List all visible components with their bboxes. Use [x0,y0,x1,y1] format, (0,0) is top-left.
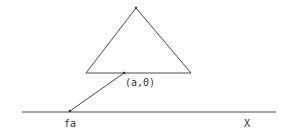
apex-point [135,7,137,9]
point-a0 [123,72,126,75]
diagram-canvas: (a,0) fa X [0,0,291,133]
label-fa: fa [64,118,76,129]
label-x-axis: X [244,118,250,129]
triangle [86,8,191,73]
label-a0: (a,0) [125,77,155,88]
point-fa [69,110,72,113]
mapping-line [70,73,124,111]
